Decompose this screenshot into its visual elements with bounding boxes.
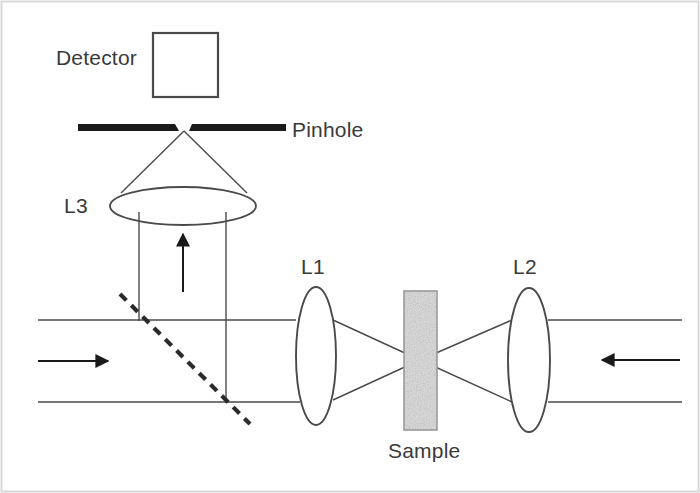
- pinhole-left-bar: [78, 124, 179, 131]
- figure-border: [2, 2, 699, 492]
- lens-l1: [296, 287, 336, 425]
- lens-l3-label: L3: [64, 195, 88, 216]
- pinhole-right-bar: [189, 124, 286, 131]
- sample-block: [404, 291, 437, 430]
- optical-diagram-canvas: Detector Pinhole L3 L1 L2 Sample: [0, 0, 700, 493]
- lens-l1-label: L1: [301, 256, 325, 277]
- lens-l2-label: L2: [513, 256, 537, 277]
- detector-label: Detector: [56, 47, 137, 68]
- sample-label: Sample: [388, 440, 460, 461]
- detector-box: [153, 33, 218, 97]
- optical-diagram-svg: [0, 0, 700, 493]
- pinhole-label: Pinhole: [292, 119, 363, 140]
- lens-l3: [110, 187, 256, 225]
- lens-l2: [508, 288, 550, 432]
